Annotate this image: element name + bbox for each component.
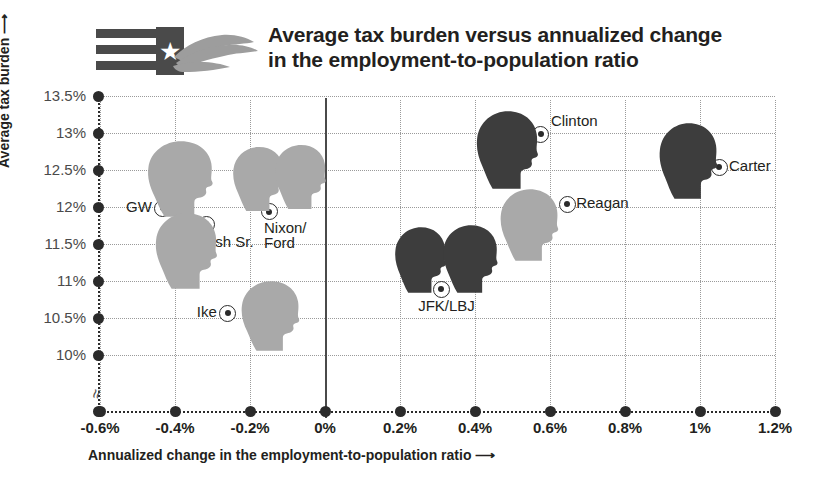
gridline-horizontal (99, 355, 775, 356)
x-axis-tick-label: 0.2% (365, 419, 435, 436)
y-axis-base-tick (93, 406, 104, 417)
president-silhouette-icon (440, 224, 502, 294)
y-axis-spine (98, 98, 100, 413)
president-silhouette-icon (238, 280, 304, 352)
data-point-label: Carter (729, 158, 771, 173)
gridline-vertical (625, 100, 626, 411)
gridline-horizontal (99, 96, 775, 97)
axis-break-icon: ≈ (86, 379, 113, 402)
page-title-line2: in the employment-to-population ratio (268, 47, 796, 72)
x-axis-tick-label: 1% (665, 419, 735, 436)
president-silhouette-icon (473, 110, 543, 190)
data-point-label: Reagan (576, 195, 629, 210)
x-axis-tick (620, 406, 631, 417)
president-silhouette-icon (144, 140, 218, 218)
y-axis-tick (93, 313, 104, 324)
x-axis-tick-label: 1.2% (740, 419, 810, 436)
x-axis-tick (770, 406, 781, 417)
x-axis-tick (695, 406, 706, 417)
y-axis-tick-label: 13.5% (28, 87, 86, 104)
data-point-label: JFK/LBJ (418, 298, 475, 313)
flag-stripe (96, 45, 158, 54)
flag-icon: ★ (96, 27, 184, 73)
y-axis-tick-label: 11% (28, 272, 86, 289)
y-axis-tick-label: 10% (28, 346, 86, 363)
president-silhouette-icon (656, 122, 722, 200)
y-axis-tick-label: 10.5% (28, 309, 86, 326)
y-axis-tick (93, 276, 104, 287)
x-axis-tick (320, 406, 331, 417)
y-axis-tick-label: 12.5% (28, 161, 86, 178)
hand-icon (172, 31, 260, 73)
x-axis-tick (170, 406, 181, 417)
x-axis-tick-label: 0.6% (515, 419, 585, 436)
y-axis-tick (93, 239, 104, 250)
x-axis-spine (99, 411, 777, 413)
y-axis-tick-label: 13% (28, 124, 86, 141)
y-axis-label: Average tax burden ⟶ (0, 0, 12, 168)
page-title-line1: Average tax burden versus annualized cha… (268, 22, 796, 47)
x-axis-tick-label: -0.6% (65, 419, 135, 436)
x-axis-tick-label: 0% (290, 419, 360, 436)
flag-stripe (96, 29, 158, 38)
data-point-label: Nixon/Ford (264, 220, 307, 250)
gridline-vertical (775, 100, 776, 411)
x-axis-tick-label: 0.4% (440, 419, 510, 436)
x-axis-tick (545, 406, 556, 417)
y-axis-tick (93, 350, 104, 361)
y-axis-tick (93, 165, 104, 176)
chart-header: ★ Average tax burden versus annualized c… (96, 22, 796, 84)
y-axis-tick (93, 202, 104, 213)
page-title: Average tax burden versus annualized cha… (268, 22, 796, 72)
x-axis-tick-label: 0.8% (590, 419, 660, 436)
x-axis-tick (245, 406, 256, 417)
president-silhouette-icon (497, 188, 563, 262)
x-axis-tick (470, 406, 481, 417)
president-silhouette-icon (272, 144, 330, 210)
x-axis-label: Annualized change in the employment-to-p… (88, 447, 495, 463)
y-axis-tick-label: 11.5% (28, 235, 86, 252)
data-point-label: Clinton (551, 113, 598, 128)
data-point-label: Ike (197, 304, 217, 319)
x-axis-tick (395, 406, 406, 417)
gridline-vertical (100, 100, 101, 411)
president-silhouette-icon (152, 212, 222, 290)
x-axis-tick-label: -0.2% (215, 419, 285, 436)
publication-logo: ★ (96, 25, 256, 75)
y-axis-tick (93, 128, 104, 139)
y-axis-tick-label: 12% (28, 198, 86, 215)
y-axis-tick (93, 91, 104, 102)
data-point-marker[interactable] (219, 305, 236, 322)
flag-stripe (96, 61, 158, 70)
x-axis-tick-label: -0.4% (140, 419, 210, 436)
